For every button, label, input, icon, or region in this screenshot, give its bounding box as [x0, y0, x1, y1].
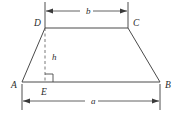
altitude-label-h: h	[52, 52, 57, 62]
vertex-label-C: C	[133, 18, 140, 28]
vertex-label-D: D	[33, 18, 41, 28]
right-angle-icon	[45, 74, 53, 82]
trapezoid-outline	[22, 28, 160, 82]
trapezoid-figure-canvas: A B C D E h b a	[0, 0, 175, 114]
vertex-label-A: A	[10, 80, 17, 90]
arrowhead-right-icon-top	[120, 8, 127, 13]
arrowhead-left-icon-bottom	[23, 98, 30, 103]
dimension-label-b: b	[86, 6, 91, 16]
dimension-label-a: a	[91, 96, 96, 106]
trapezoid-diagram: A B C D E h b a	[0, 0, 175, 114]
vertex-label-B: B	[165, 80, 171, 90]
arrowhead-right-icon-bottom	[152, 98, 159, 103]
arrowhead-left-icon-top	[46, 8, 53, 13]
vertex-label-E: E	[40, 87, 47, 97]
